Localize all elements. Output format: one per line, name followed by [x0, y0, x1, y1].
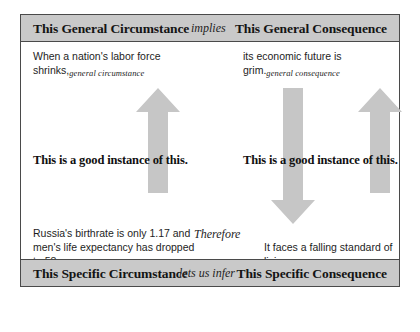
quadrant-top-left-text: When a nation's labor force shrinks,gene…: [33, 49, 183, 80]
top-right-annotation: general consequence: [266, 68, 339, 78]
right-instance-claim: This is a good instance of this.: [243, 153, 398, 168]
footer-band: This Specific Circumstance lets us infer…: [21, 259, 399, 286]
header-right-cell: This General Consequence: [235, 15, 387, 42]
top-left-annotation: general circumstance: [69, 68, 144, 78]
right-instance-arrow: [358, 88, 402, 193]
argument-diagram: This General Circumstance implies This G…: [20, 14, 400, 287]
footer-connector-label: lets us infer: [179, 266, 235, 281]
quadrant-top-right-text: its economic future is grim.general cons…: [243, 49, 393, 80]
footer-connector-cell: lets us infer: [179, 260, 235, 287]
footer-right-label: This Specific Consequence: [236, 266, 387, 282]
header-band: This General Circumstance implies This G…: [21, 15, 399, 42]
header-left-cell: This General Circumstance: [33, 15, 189, 42]
left-instance-arrow: [136, 88, 180, 193]
footer-left-label: This Specific Circumstance: [33, 266, 188, 282]
header-right-label: This General Consequence: [235, 21, 387, 37]
middle-connector-label: Therefore: [194, 227, 240, 242]
footer-left-cell: This Specific Circumstance: [33, 260, 188, 287]
left-instance-claim: This is a good instance of this.: [33, 153, 188, 168]
header-left-label: This General Circumstance: [33, 21, 189, 37]
header-connector-label: implies: [191, 21, 226, 36]
header-connector-cell: implies: [191, 15, 226, 42]
footer-right-cell: This Specific Consequence: [236, 260, 387, 287]
